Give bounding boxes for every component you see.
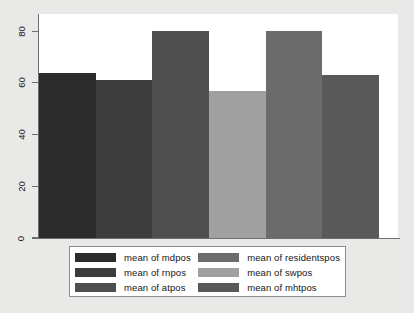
bar xyxy=(152,31,209,238)
y-tick-label: 40 xyxy=(12,129,30,141)
legend-color-swatch xyxy=(75,268,116,277)
chart-legend: mean of mdposmean of residentsposmean of… xyxy=(69,246,346,297)
legend-entry: mean of rnpos xyxy=(75,265,194,280)
bar xyxy=(96,80,153,238)
legend-color-swatch xyxy=(198,253,239,262)
bar-chart-figure: 806040200 mean of mdposmean of residents… xyxy=(0,0,414,313)
y-tick-label-text: 0 xyxy=(15,235,26,240)
bar xyxy=(266,31,323,238)
bar xyxy=(39,73,96,238)
bar xyxy=(322,75,379,238)
y-tick-mark xyxy=(32,31,38,32)
legend-label: mean of mdpos xyxy=(124,252,191,263)
bar xyxy=(209,91,266,238)
legend-label: mean of atpos xyxy=(124,282,186,293)
y-tick-label-text: 60 xyxy=(15,78,26,89)
legend-entry: mean of residentspos xyxy=(198,250,340,265)
x-axis-line xyxy=(38,238,400,239)
legend-color-swatch xyxy=(75,253,116,262)
y-tick-label: 20 xyxy=(12,180,30,192)
legend-entry: mean of mdpos xyxy=(75,250,194,265)
bar-series xyxy=(39,14,379,238)
y-tick-label-text: 40 xyxy=(15,129,26,140)
y-tick-mark xyxy=(32,237,38,238)
y-tick-label: 0 xyxy=(12,232,30,244)
y-tick-label: 80 xyxy=(12,25,30,37)
y-tick-label-text: 20 xyxy=(15,181,26,192)
y-tick-mark xyxy=(32,134,38,135)
legend-color-swatch xyxy=(198,268,239,277)
y-tick-mark xyxy=(32,82,38,83)
legend-label: mean of rnpos xyxy=(124,267,186,278)
legend-color-swatch xyxy=(75,283,116,292)
legend-label: mean of residentspos xyxy=(247,252,340,263)
y-tick-mark xyxy=(32,186,38,187)
legend-label: mean of mhtpos xyxy=(247,282,317,293)
legend-grid: mean of mdposmean of residentsposmean of… xyxy=(75,250,340,293)
legend-entry: mean of mhtpos xyxy=(198,280,340,295)
legend-label: mean of swpos xyxy=(247,267,312,278)
legend-color-swatch xyxy=(198,283,239,292)
y-tick-label: 60 xyxy=(12,77,30,89)
legend-entry: mean of atpos xyxy=(75,280,194,295)
legend-entry: mean of swpos xyxy=(198,265,340,280)
y-tick-label-text: 80 xyxy=(15,26,26,37)
